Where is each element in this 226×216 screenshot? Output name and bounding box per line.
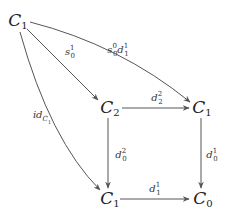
label-d22: d22 [151,93,162,103]
node-base: C [193,188,206,208]
node-c1-right: C1 [192,99,211,118]
node-base: C [192,97,205,117]
node-sub: 2 [113,107,119,118]
arrow-s01 [27,29,98,100]
label-id-c1: idC1 [33,110,51,121]
diagram-canvas: C1 C2 C1 C1 C0 s10 s00d11 idC1 d22 d20 d… [0,0,226,216]
label-d02: d20 [115,150,126,160]
label-d11: d11 [149,184,160,194]
node-sub: 1 [21,20,27,31]
node-sub: 1 [205,107,211,118]
node-sub: 1 [113,198,119,209]
node-base: C [100,188,113,208]
label-s00d11: s00d11 [107,45,128,55]
node-c2-middle: C2 [100,99,119,118]
label-s01: s10 [65,47,75,57]
node-base: C [100,97,113,117]
node-sub: 0 [206,198,212,209]
node-c0: C0 [193,190,212,209]
label-d01: d10 [206,150,217,160]
arrow-s00d11 [30,22,190,102]
node-c1-bottom: C1 [100,190,119,209]
node-base: C [8,10,21,30]
node-c1-top: C1 [8,12,27,31]
